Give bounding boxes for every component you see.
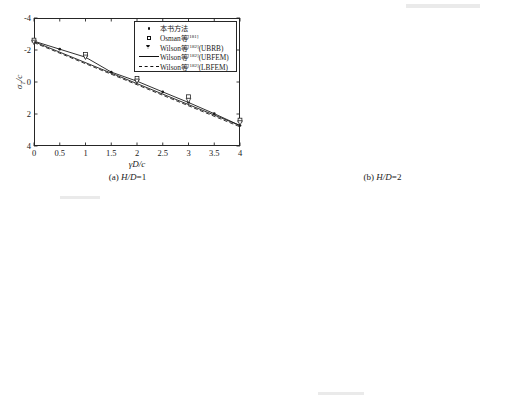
- data-point-filled-dot: [161, 91, 164, 94]
- data-point-filled-dot: [58, 48, 61, 51]
- legend-label-superscript: [182]: [188, 63, 199, 68]
- open-square-icon: [147, 36, 150, 39]
- y-tick-label: -2: [24, 45, 31, 55]
- x-tick-label: 4: [238, 148, 242, 158]
- data-point-open-triangle: [83, 55, 88, 59]
- chart-panel-panel-a: 本书方法Osman等[181]Wilson等[182](UBRB)Wilson等…: [0, 0, 255, 204]
- x-tick-label: 1.5: [106, 148, 117, 158]
- scan-artifact: [60, 196, 100, 199]
- legend-label-superscript: [181]: [188, 34, 199, 39]
- chart-legend-0: 本书方法Osman等[181]Wilson等[182](UBRB)Wilson等…: [134, 21, 237, 72]
- y-axis-title-text: σT/c: [14, 75, 24, 89]
- legend-symbol-solid-line-icon: [138, 52, 160, 61]
- caption-prefix: (b): [364, 172, 377, 182]
- y-tick-label: 2: [27, 109, 31, 119]
- y-tick-label: 0: [27, 77, 31, 87]
- caption-suffix: =2: [392, 172, 402, 182]
- legend-symbol-dashed-line-icon: [138, 62, 160, 71]
- caption-variable: H/D: [121, 172, 137, 182]
- chart-panel-panel-b: 本书方法Osman等[181]Wilson等[182](UBRB)Wilson等…: [255, 0, 510, 204]
- panel-caption: (a) H/D=1: [0, 172, 255, 182]
- x-tick-label: 3: [186, 148, 190, 158]
- legend-label-main: Wilson等: [160, 63, 188, 72]
- legend-symbol-open-square-icon: [138, 34, 160, 43]
- x-tick-label: 3.5: [209, 148, 220, 158]
- x-tick-label: 2.5: [157, 148, 168, 158]
- x-tick-label: 0.5: [54, 148, 65, 158]
- legend-symbol-filled-dot-icon: [138, 24, 160, 33]
- legend-item-4: Wilson等[182](LBFEM): [138, 62, 232, 71]
- x-tick-label: 1: [83, 148, 87, 158]
- x-axis-title: γD/c: [129, 159, 146, 169]
- legend-label-4: Wilson等[182](LBFEM): [160, 61, 228, 72]
- solid-line-icon: [139, 56, 159, 57]
- legend-symbol-open-triangle-icon: [138, 43, 160, 52]
- y-tick-label: -4: [24, 13, 31, 23]
- dashed-line-icon: [139, 66, 159, 67]
- caption-variable: H/D: [376, 172, 392, 182]
- open-triangle-icon: [147, 45, 151, 49]
- panel-caption: (b) H/D=2: [255, 172, 510, 182]
- chart-panel-panel-d: 本书方法Osman等[181]Wilson等[182](UBRB)Wilson等…: [255, 204, 510, 409]
- y-axis-title: σT/c: [14, 75, 26, 89]
- figure-root: 本书方法Osman等[181]Wilson等[182](UBRB)Wilson等…: [0, 0, 510, 409]
- plot-area-panel-a: 本书方法Osman等[181]Wilson等[182](UBRB)Wilson等…: [34, 18, 240, 146]
- caption-suffix: =1: [137, 172, 147, 182]
- legend-label-tail: (LBFEM): [199, 63, 228, 72]
- y-tick-label: 4: [27, 141, 31, 151]
- chart-panel-panel-c: 本书方法Osman等[181]Wilson等[182](UBRB)Wilson等…: [0, 204, 255, 409]
- filled-dot-icon: [148, 27, 151, 30]
- legend-label-superscript: [182]: [188, 53, 199, 58]
- caption-prefix: (a): [109, 172, 121, 182]
- x-tick-label: 2: [135, 148, 139, 158]
- scan-artifact: [406, 4, 480, 8]
- scan-artifact: [318, 392, 364, 395]
- x-tick-label: 0: [32, 148, 36, 158]
- x-axis-title-text: γD/c: [129, 159, 146, 169]
- legend-label-superscript: [182]: [188, 44, 199, 49]
